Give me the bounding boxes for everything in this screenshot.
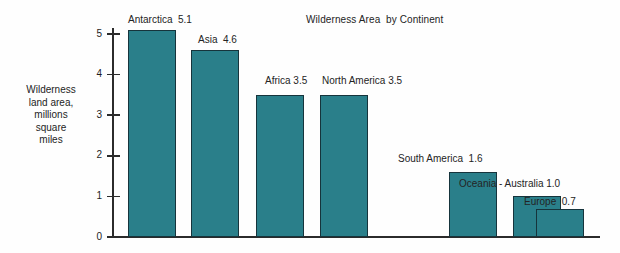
y-axis-tick	[107, 33, 120, 35]
bar-value-label: Asia 4.6	[198, 34, 237, 45]
y-axis-tick-label: 2	[82, 149, 102, 160]
bar-value-label: South America 1.6	[398, 153, 483, 164]
bar	[320, 95, 368, 237]
y-axis-tick	[107, 114, 120, 116]
y-axis-tick	[107, 155, 120, 157]
bar	[191, 50, 239, 237]
y-axis-tick	[107, 236, 120, 238]
y-axis-tick-label: 1	[82, 190, 102, 201]
y-axis-tick-label: 3	[82, 109, 102, 120]
plot-area: 012345Antarctica 5.1Asia 4.6Africa 3.5No…	[0, 0, 620, 253]
y-axis-tick	[107, 196, 120, 198]
y-axis-tick-label: 5	[82, 28, 102, 39]
bar	[536, 209, 584, 237]
bar-value-label: Africa 3.5	[265, 75, 307, 86]
y-axis-line	[112, 28, 114, 237]
bar-value-label: Antarctica 5.1	[128, 14, 192, 25]
bar-value-label: Oceania - Australia 1.0	[459, 178, 560, 189]
y-axis-tick	[107, 74, 120, 76]
y-axis-tick-label: 0	[82, 231, 102, 242]
bar-value-label: North America 3.5	[322, 75, 402, 86]
wilderness-area-bar-chart: Wilderness Area by Continent Wilderness …	[0, 0, 620, 253]
bar	[128, 30, 176, 237]
bar-value-label: Europe 0.7	[524, 196, 576, 207]
y-axis-tick-label: 4	[82, 68, 102, 79]
bar	[256, 95, 304, 237]
